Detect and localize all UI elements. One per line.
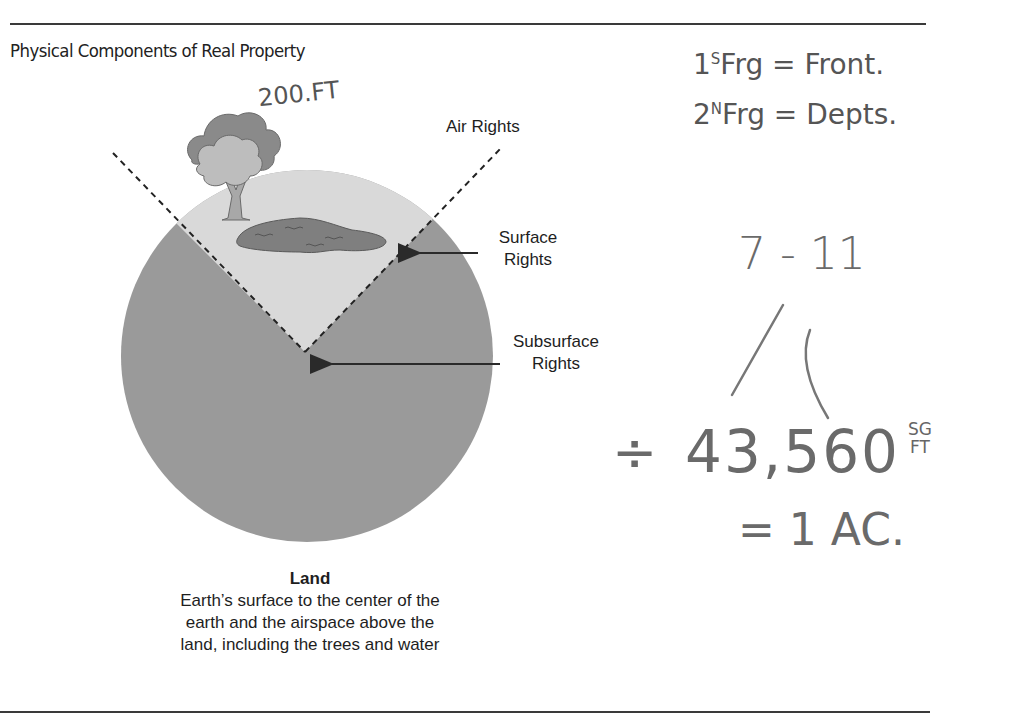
air-rights-label: Air Rights	[446, 116, 520, 138]
surface-rights-line1: Surface	[478, 227, 578, 249]
subsurface-rights-line2: Rights	[500, 353, 612, 375]
handwritten-equals-acre: = 1 AC.	[738, 504, 905, 555]
caption-line1: Earth’s surface to the center of the	[140, 590, 480, 612]
unit-bottom: FT	[908, 438, 932, 456]
surface-rights-label: Surface Rights	[478, 227, 578, 271]
air-rights-text: Air Rights	[446, 117, 520, 136]
land-caption: Land Earth’s surface to the center of th…	[140, 568, 480, 656]
depth-rest: Frg = Depts.	[722, 98, 897, 131]
handwritten-frontage-note: 1SFrg = Front.	[693, 48, 884, 81]
subsurface-rights-line1: Subsurface	[500, 331, 612, 353]
caption-heading: Land	[140, 568, 480, 590]
frontage-sup: S	[711, 50, 721, 68]
handwritten-unit: SG FT	[908, 420, 932, 456]
handwritten-acre-value: 43,560	[685, 418, 900, 486]
frontage-prefix: 1	[693, 48, 711, 81]
bottom-rule	[0, 711, 930, 713]
handwritten-depth-note: 2NFrg = Depts.	[693, 98, 897, 131]
handwritten-divide-symbol: ÷	[612, 420, 657, 483]
unit-top: SG	[908, 420, 932, 438]
depth-sup: N	[711, 100, 722, 118]
handwritten-ratio: 7 - 11	[738, 228, 866, 279]
subsurface-rights-label: Subsurface Rights	[500, 331, 612, 375]
caption-line3: land, including the trees and water	[140, 634, 480, 656]
depth-prefix: 2	[693, 98, 711, 131]
caption-line2: earth and the airspace above the	[140, 612, 480, 634]
handwritten-stroke-left	[732, 305, 783, 395]
handwritten-stroke-right	[806, 330, 828, 418]
frontage-rest: Frg = Front.	[720, 48, 884, 81]
surface-rights-line2: Rights	[478, 249, 578, 271]
